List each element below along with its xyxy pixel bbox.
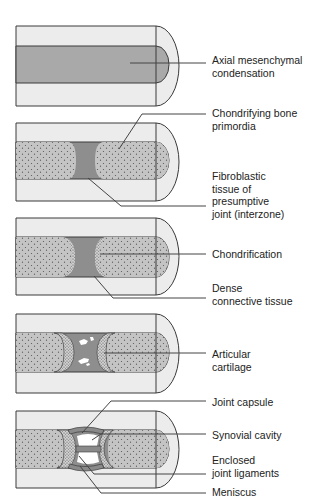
label-chondrifying-bone-primordia: Chondrifying bone primordia xyxy=(212,107,297,132)
label-dense-connective-tissue: Dense connective tissue xyxy=(212,282,293,307)
label-line: joint ligaments xyxy=(212,467,279,480)
label-line: primordia xyxy=(212,120,297,133)
label-joint-capsule: Joint capsule xyxy=(212,396,273,409)
label-meniscus: Meniscus xyxy=(212,486,256,499)
panel-stage-1 xyxy=(16,26,206,106)
panel-stage-2 xyxy=(16,114,206,206)
label-line: condensation xyxy=(212,67,302,80)
label-articular-cartilage: Articular cartilage xyxy=(212,348,252,373)
label-axial-mesenchymal-condensation: Axial mesenchymal condensation xyxy=(212,54,302,79)
label-line: tissue of xyxy=(212,183,284,196)
label-line: Enclosed xyxy=(212,454,279,467)
label-line: Fibroblastic xyxy=(212,170,284,183)
label-line: Articular xyxy=(212,348,252,361)
label-line: Chondrifying bone xyxy=(212,107,297,120)
label-line: joint (interzone) xyxy=(212,208,284,221)
label-line: presumptive xyxy=(212,195,284,208)
panel-stage-3 xyxy=(16,218,206,298)
label-line: Synovial cavity xyxy=(212,429,281,442)
label-enclosed-joint-ligaments: Enclosed joint ligaments xyxy=(212,454,279,479)
label-line: connective tissue xyxy=(212,295,293,308)
label-line: cartilage xyxy=(212,361,252,374)
panel-stage-4 xyxy=(16,314,206,393)
label-synovial-cavity: Synovial cavity xyxy=(212,429,281,442)
label-line: Joint capsule xyxy=(212,396,273,409)
label-chondrification: Chondrification xyxy=(212,248,282,261)
label-line: Dense xyxy=(212,282,293,295)
label-line: Meniscus xyxy=(212,486,256,499)
panel-stage-5 xyxy=(16,401,206,493)
label-line: Chondrification xyxy=(212,248,282,261)
label-fibroblastic-interzone: Fibroblastic tissue of presumptive joint… xyxy=(212,170,284,220)
label-line: Axial mesenchymal xyxy=(212,54,302,67)
